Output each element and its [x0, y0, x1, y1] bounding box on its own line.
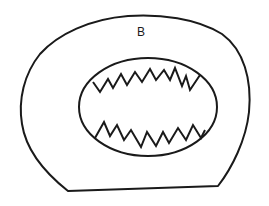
- outer-boundary-shape: [21, 16, 250, 191]
- upper-zigzag-line: [93, 68, 200, 92]
- diagram-canvas: B: [0, 0, 269, 206]
- region-label-b: B: [137, 26, 145, 38]
- lower-zigzag-line: [95, 122, 205, 147]
